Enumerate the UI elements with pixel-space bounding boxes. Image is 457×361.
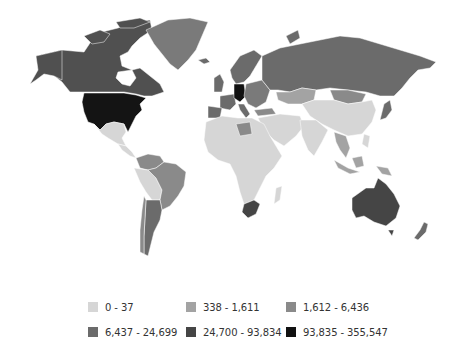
legend-swatch — [186, 327, 196, 337]
region-turkey[interactable] — [254, 108, 276, 116]
region-tasmania — [388, 230, 394, 236]
legend-item-class-3: 1,612 - 6,436 — [286, 300, 369, 314]
region-alaska[interactable] — [30, 50, 62, 84]
region-australia[interactable] — [352, 178, 400, 226]
region-iberia[interactable] — [208, 106, 222, 118]
region-italy[interactable] — [238, 104, 250, 118]
legend-swatch — [88, 327, 98, 337]
region-madagascar[interactable] — [274, 186, 282, 204]
legend-label: 93,835 - 355,547 — [303, 327, 388, 338]
region-philippines[interactable] — [362, 134, 370, 148]
legend-item-class-5: 24,700 - 93,834 — [186, 325, 281, 339]
region-greenland[interactable] — [146, 18, 208, 70]
legend-swatch — [88, 302, 98, 312]
legend-label: 338 - 1,611 — [203, 302, 260, 313]
region-iceland — [198, 58, 210, 64]
region-france[interactable] — [220, 94, 236, 110]
region-germany[interactable] — [234, 84, 246, 102]
legend-swatch — [286, 327, 296, 337]
region-argentina[interactable] — [144, 200, 162, 256]
region-scandinavia[interactable] — [230, 50, 262, 84]
region-indonesia[interactable] — [334, 156, 392, 176]
legend-item-class-2: 338 - 1,611 — [186, 300, 260, 314]
legend-label: 6,437 - 24,699 — [105, 327, 177, 338]
legend-swatch — [286, 302, 296, 312]
legend-item-class-4: 6,437 - 24,699 — [88, 325, 177, 339]
world-choropleth-map — [0, 0, 457, 290]
legend-item-class-1: 0 - 37 — [88, 300, 133, 314]
legend-swatch — [186, 302, 196, 312]
legend-label: 24,700 - 93,834 — [203, 327, 281, 338]
region-united-kingdom[interactable] — [214, 74, 224, 92]
region-new-zealand[interactable] — [414, 222, 428, 240]
region-central-america[interactable] — [118, 144, 136, 158]
region-japan[interactable] — [380, 100, 392, 120]
region-novaya-zemlya — [286, 30, 300, 44]
map-legend: 0 - 37 338 - 1,611 1,612 - 6,436 6,437 -… — [88, 300, 408, 346]
region-russia[interactable] — [262, 36, 436, 96]
region-india[interactable] — [300, 120, 328, 156]
legend-label: 0 - 37 — [105, 302, 133, 313]
legend-item-class-6: 93,835 - 355,547 — [286, 325, 388, 339]
legend-label: 1,612 - 6,436 — [303, 302, 369, 313]
